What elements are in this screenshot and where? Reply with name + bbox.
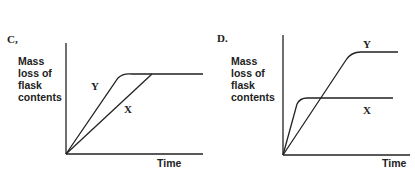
panel-d: D. Mass loss of flask contents Time Y X <box>205 0 415 184</box>
chart-c-plot <box>0 0 207 184</box>
chart-d-plot <box>205 0 415 184</box>
panel-c: C, Mass loss of flask contents Time Y X <box>0 0 207 184</box>
